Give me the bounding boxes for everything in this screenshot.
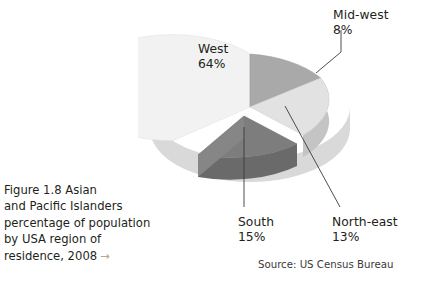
slice-label-midwest-value: 8% xyxy=(333,23,389,38)
slice-label-northeast-value: 13% xyxy=(332,230,398,245)
caption-line-5: residence, 2008→ xyxy=(4,248,204,264)
slice-label-south-name: South xyxy=(238,215,274,230)
slice-label-northeast: North-east 13% xyxy=(332,215,398,244)
caption-arrow-icon: → xyxy=(97,248,110,264)
caption-line-4: by USA region of xyxy=(4,231,204,247)
slice-south xyxy=(198,116,297,180)
caption-line-2: and Pacific Islanders xyxy=(4,198,204,214)
source-note: Source: US Census Bureau xyxy=(258,258,393,271)
caption-line-3: percentage of population xyxy=(4,215,204,231)
slice-label-northeast-name: North-east xyxy=(332,215,398,230)
slice-label-west-value: 64% xyxy=(198,57,228,72)
caption-line-1: Figure 1.8 Asian xyxy=(4,182,204,198)
slice-label-west-name: West xyxy=(198,42,228,57)
slice-label-south: South 15% xyxy=(238,215,274,244)
slice-label-west: West 64% xyxy=(198,42,228,71)
slice-label-south-value: 15% xyxy=(238,230,274,245)
caption-line-5-text: residence, 2008 xyxy=(4,249,97,263)
figure-container: West 64% Mid-west 8% North-east 13% Sout… xyxy=(0,0,429,294)
slice-label-midwest: Mid-west 8% xyxy=(333,8,389,37)
slice-west-top xyxy=(138,35,250,141)
leader-line-midwest xyxy=(316,52,341,73)
slice-label-midwest-name: Mid-west xyxy=(333,8,389,23)
figure-caption: Figure 1.8 Asian and Pacific Islanders p… xyxy=(4,182,204,264)
